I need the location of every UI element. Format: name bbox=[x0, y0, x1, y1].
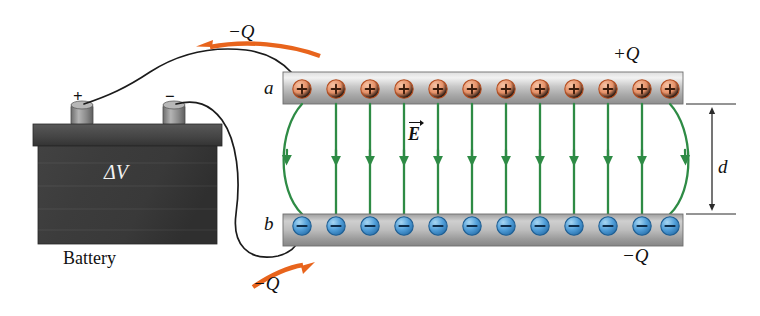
capacitor-battery-diagram: +Q −Q −Q −Q a b d ΔV Battery + − E bbox=[0, 0, 760, 316]
positive-charge bbox=[633, 80, 651, 98]
capacitor-top-plate bbox=[283, 72, 683, 104]
positive-charge bbox=[599, 80, 617, 98]
diagram-canvas bbox=[0, 0, 760, 316]
top-plate-charge-label: +Q bbox=[613, 44, 640, 63]
bottom-plate-label: b bbox=[264, 214, 274, 233]
electric-field-label: E bbox=[408, 118, 424, 143]
negative-charge bbox=[293, 217, 311, 235]
negative-charge bbox=[565, 217, 583, 235]
positive-charge bbox=[463, 80, 481, 98]
bottom-plate-charge-label: −Q bbox=[622, 246, 649, 265]
charge-flow-arrowhead-bottom bbox=[301, 262, 315, 274]
top-plate-label: a bbox=[264, 78, 274, 97]
negative-charge bbox=[395, 217, 413, 235]
negative-charge bbox=[599, 217, 617, 235]
charge-flow-label-bottom: −Q bbox=[253, 274, 280, 293]
battery-caption: Battery bbox=[63, 249, 116, 267]
electric-field-symbol: E bbox=[408, 124, 420, 144]
negative-charge bbox=[661, 217, 679, 235]
capacitor-bottom-plate bbox=[283, 214, 683, 246]
battery-terminal-negative-label: − bbox=[165, 88, 175, 105]
positive-charge bbox=[661, 80, 679, 98]
positive-charge bbox=[327, 80, 345, 98]
negative-charge bbox=[361, 217, 379, 235]
positive-charge bbox=[361, 80, 379, 98]
positive-charge bbox=[395, 80, 413, 98]
electric-field-lines bbox=[284, 104, 689, 214]
positive-charge bbox=[293, 80, 311, 98]
wire-positive-terminal-to-top-plate bbox=[84, 49, 292, 104]
negative-charge bbox=[497, 217, 515, 235]
vector-arrow-icon bbox=[409, 118, 424, 125]
negative-charge bbox=[429, 217, 447, 235]
charge-flow-arrowhead-top bbox=[196, 40, 213, 47]
battery-terminal-positive-label: + bbox=[73, 88, 83, 105]
negative-charge bbox=[531, 217, 549, 235]
plate-separation-label: d bbox=[718, 157, 728, 176]
positive-charge bbox=[497, 80, 515, 98]
battery-voltage-label: ΔV bbox=[104, 162, 128, 182]
negative-charge bbox=[633, 217, 651, 235]
positive-charge bbox=[429, 80, 447, 98]
negative-charge bbox=[463, 217, 481, 235]
negative-charge bbox=[327, 217, 345, 235]
positive-charge bbox=[531, 80, 549, 98]
plate-separation-dimension bbox=[686, 104, 736, 214]
charge-flow-label-top: −Q bbox=[228, 22, 255, 41]
battery-top bbox=[33, 124, 222, 146]
positive-charge bbox=[565, 80, 583, 98]
